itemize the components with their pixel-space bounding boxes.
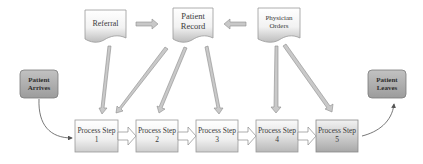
physician-orders-line1: Physician	[265, 14, 292, 22]
document-physician-orders-label: Physician Orders	[258, 10, 300, 34]
process-step-5: Process Step 5	[316, 120, 358, 152]
connector-step5-to-leaves	[362, 104, 394, 136]
physician-orders-line2: Orders	[269, 22, 288, 30]
step-number: 5	[335, 136, 339, 145]
process-flow-diagram: Referral Patient Record Physician Orders…	[0, 0, 423, 164]
document-referral-label: Referral	[85, 12, 126, 36]
patient-record-line2: Record	[181, 22, 206, 32]
arrow-orders-to-record	[224, 19, 246, 29]
patient-arrives-line2: Arrives	[28, 84, 51, 92]
terminal-patient-arrives: Patient Arrives	[20, 70, 58, 98]
info-arrows	[99, 44, 333, 114]
process-step-4: Process Step 4	[256, 120, 298, 152]
patient-leaves-line1: Patient	[376, 76, 397, 84]
step-number: 1	[95, 136, 99, 145]
step-number: 4	[275, 136, 279, 145]
connector-arrives-to-step1	[39, 99, 72, 138]
terminal-patient-leaves: Patient Leaves	[368, 70, 406, 98]
document-patient-record-label: Patient Record	[173, 9, 213, 35]
process-step-3: Process Step 3	[196, 120, 238, 152]
process-step-1: Process Step 1	[75, 120, 118, 152]
arrow-referral-to-record	[136, 19, 158, 29]
step-number: 2	[155, 136, 159, 145]
referral-text: Referral	[92, 19, 118, 28]
patient-arrives-line1: Patient	[28, 76, 49, 84]
step-number: 3	[215, 136, 219, 145]
patient-leaves-line2: Leaves	[377, 84, 398, 92]
process-step-2: Process Step 2	[136, 120, 178, 152]
